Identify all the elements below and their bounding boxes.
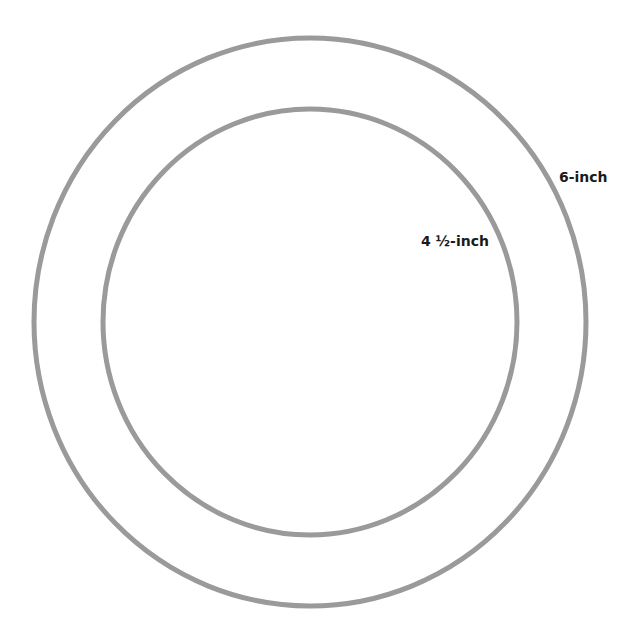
inner-circle-4-half-inch: [103, 109, 517, 535]
outer-circle-6-inch: [34, 38, 586, 606]
outer-circle-label: 6-inch: [559, 170, 608, 184]
inner-circle-label: 4 ½-inch: [421, 234, 489, 248]
concentric-circles-diagram: [0, 0, 642, 640]
